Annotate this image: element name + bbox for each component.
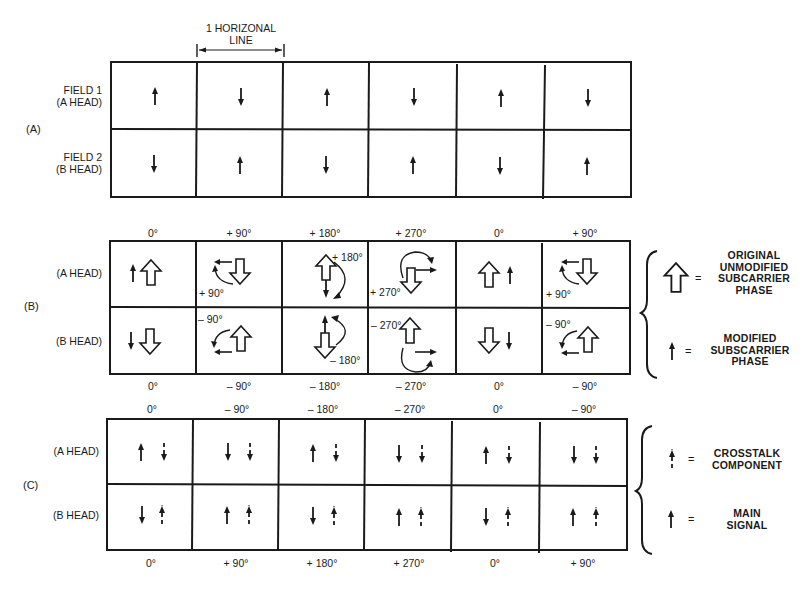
degree-label: 0° bbox=[108, 557, 194, 569]
legend-main-signal: MAIN SIGNAL bbox=[712, 508, 782, 531]
cell-annotation: – 90° bbox=[198, 313, 223, 325]
span-label-line2: LINE bbox=[196, 34, 286, 46]
brace-b bbox=[641, 251, 657, 378]
section-c-label: (C) bbox=[23, 479, 38, 491]
degree-label: + 180° bbox=[279, 557, 365, 569]
degree-label: – 180° bbox=[280, 403, 366, 415]
legend-equals: = bbox=[688, 453, 694, 465]
degree-label: 0° bbox=[452, 557, 538, 569]
degree-label: – 270° bbox=[368, 380, 454, 392]
legend-line: SIGNAL bbox=[712, 520, 782, 532]
degree-label: 0° bbox=[110, 380, 196, 392]
cell-annotation: + 180° bbox=[332, 251, 363, 263]
degree-label: + 270° bbox=[368, 227, 454, 239]
legend-line: COMPONENT bbox=[702, 460, 792, 472]
grid-c bbox=[107, 419, 627, 553]
degree-label: 0° bbox=[455, 403, 541, 415]
field-1-label: FIELD 1 bbox=[30, 84, 102, 96]
row-label-field-2: FIELD 2 (B HEAD) bbox=[30, 151, 102, 175]
degree-label: 0° bbox=[109, 403, 195, 415]
section-a-label: (A) bbox=[26, 123, 41, 135]
cell-annotation: + 90° bbox=[199, 287, 224, 299]
degree-label: + 90° bbox=[196, 227, 282, 239]
degree-label: – 90° bbox=[194, 403, 280, 415]
cell-annotation: + 270° bbox=[370, 286, 401, 298]
legend-line: SUBCARRIER bbox=[708, 273, 800, 285]
legend-modified-phase: MODIFIED SUBSCARRIER PHASE bbox=[702, 333, 798, 368]
legend-original-phase: ORIGINAL UNMODIFIED SUBCARRIER PHASE bbox=[708, 250, 800, 296]
b-row-b-head-label: (B HEAD) bbox=[20, 335, 102, 347]
horizontal-line-label: 1 HORIZONAL LINE bbox=[196, 22, 286, 46]
degree-label: + 90° bbox=[542, 227, 628, 239]
b-head-label: (B HEAD) bbox=[30, 163, 102, 175]
a-head-label: (A HEAD) bbox=[30, 96, 102, 108]
legend-crosstalk: CROSSTALK COMPONENT bbox=[702, 448, 792, 471]
legend-equals: = bbox=[688, 513, 694, 525]
legend-equals: = bbox=[685, 345, 691, 357]
degree-label: 0° bbox=[456, 227, 542, 239]
c-row-a-head-label: (A HEAD) bbox=[17, 445, 99, 457]
b-row-a-head-label: (A HEAD) bbox=[20, 267, 102, 279]
degree-label: 0° bbox=[456, 380, 542, 392]
degree-label: – 90° bbox=[541, 403, 627, 415]
legend-equals: = bbox=[695, 272, 701, 284]
section-b-label: (B) bbox=[24, 300, 39, 312]
diagram-graphics bbox=[0, 0, 807, 591]
degree-label: + 90° bbox=[193, 557, 279, 569]
legend-line: ORIGINAL bbox=[708, 250, 800, 262]
degree-label: – 90° bbox=[542, 380, 628, 392]
cell-annotation: – 180° bbox=[330, 354, 360, 366]
degree-label: – 90° bbox=[196, 380, 282, 392]
degree-label: – 180° bbox=[282, 380, 368, 392]
brace-c bbox=[636, 426, 652, 554]
cell-annotation: – 270° bbox=[371, 319, 401, 331]
span-label-line1: 1 HORIZONAL bbox=[196, 22, 286, 34]
legend-line: MAIN bbox=[712, 508, 782, 520]
cell-annotation: + 90° bbox=[546, 288, 571, 300]
field-2-label: FIELD 2 bbox=[30, 151, 102, 163]
cell-annotation: – 90° bbox=[546, 318, 571, 330]
c-row-b-head-label: (B HEAD) bbox=[17, 509, 99, 521]
degree-label: + 90° bbox=[540, 557, 626, 569]
row-label-field-1: FIELD 1 (A HEAD) bbox=[30, 84, 102, 108]
grid-a bbox=[111, 62, 631, 199]
legend-line: PHASE bbox=[708, 285, 800, 297]
grid-a-arrows bbox=[151, 87, 591, 175]
degree-label: + 270° bbox=[366, 557, 452, 569]
legend-line: MODIFIED bbox=[702, 333, 798, 345]
degree-label: 0° bbox=[110, 227, 196, 239]
degree-label: + 180° bbox=[282, 227, 368, 239]
grid-b-symbols bbox=[128, 252, 598, 372]
legend-line: CROSSTALK bbox=[702, 448, 792, 460]
grid-b bbox=[110, 241, 630, 374]
legend-line: PHASE bbox=[702, 356, 798, 368]
degree-label: – 270° bbox=[367, 403, 453, 415]
